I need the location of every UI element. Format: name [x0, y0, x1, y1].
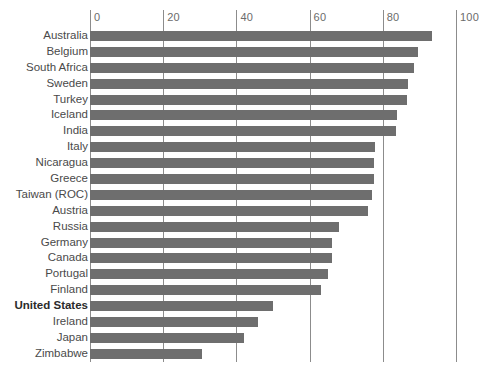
category-label-belgium: Belgium [46, 44, 88, 60]
bar-track [90, 346, 456, 362]
category-label-ireland: Ireland [53, 314, 88, 330]
category-label-portugal: Portugal [45, 266, 88, 282]
bar-row: Greece [0, 171, 474, 187]
bar-rows: AustraliaBelgiumSouth AfricaSwedenTurkey… [0, 28, 474, 362]
bar-track [90, 28, 456, 44]
bar-track [90, 219, 456, 235]
bar-track [90, 76, 456, 92]
bar-track [90, 44, 456, 60]
bar-india [90, 126, 396, 136]
bar-track [90, 171, 456, 187]
bar-austria [90, 206, 368, 216]
x-tick-label-0: 0 [94, 11, 100, 23]
bar-row: Sweden [0, 76, 474, 92]
bar-row: Turkey [0, 92, 474, 108]
bar-track [90, 298, 456, 314]
x-tick-label-80: 80 [387, 11, 400, 23]
bar-japan [90, 333, 244, 343]
bar-row: Australia [0, 28, 474, 44]
bar-track [90, 266, 456, 282]
bar-sweden [90, 79, 408, 89]
category-label-iceland: Iceland [51, 107, 88, 123]
bar-row: Zimbabwe [0, 346, 474, 362]
bar-track [90, 203, 456, 219]
bar-track [90, 155, 456, 171]
bar-track [90, 123, 456, 139]
category-label-sweden: Sweden [46, 76, 88, 92]
bar-ireland [90, 317, 258, 327]
bar-track [90, 60, 456, 76]
bar-track [90, 187, 456, 203]
bar-row: Finland [0, 282, 474, 298]
x-tick-label-100: 100 [460, 11, 479, 23]
category-label-russia: Russia [53, 219, 88, 235]
bar-track [90, 235, 456, 251]
bar-row: Germany [0, 235, 474, 251]
bar-nicaragua [90, 158, 374, 168]
category-label-australia: Australia [43, 28, 88, 44]
category-label-greece: Greece [50, 171, 88, 187]
bar-row: Nicaragua [0, 155, 474, 171]
bar-australia [90, 31, 432, 41]
bar-greece [90, 174, 374, 184]
category-label-taiwan-roc: Taiwan (ROC) [16, 187, 88, 203]
bar-row: South Africa [0, 60, 474, 76]
bar-row: Russia [0, 219, 474, 235]
x-tick-label-40: 40 [240, 11, 253, 23]
category-label-india: India [63, 123, 88, 139]
category-label-canada: Canada [48, 250, 88, 266]
bar-canada [90, 253, 332, 263]
bar-row: India [0, 123, 474, 139]
bar-track [90, 314, 456, 330]
bar-track [90, 282, 456, 298]
bar-row: Austria [0, 203, 474, 219]
x-tick-label-60: 60 [314, 11, 327, 23]
bar-row: Belgium [0, 44, 474, 60]
category-label-turkey: Turkey [53, 92, 88, 108]
bar-row: Italy [0, 139, 474, 155]
bar-row: United States [0, 298, 474, 314]
category-label-italy: Italy [67, 139, 88, 155]
bar-united-states [90, 301, 273, 311]
bar-row: Ireland [0, 314, 474, 330]
bar-row: Taiwan (ROC) [0, 187, 474, 203]
bar-track [90, 139, 456, 155]
bar-track [90, 250, 456, 266]
bar-turkey [90, 95, 407, 105]
bar-belgium [90, 47, 418, 57]
bar-track [90, 330, 456, 346]
category-label-austria: Austria [52, 203, 88, 219]
bar-portugal [90, 269, 328, 279]
bar-russia [90, 222, 339, 232]
bar-row: Iceland [0, 107, 474, 123]
bar-track [90, 107, 456, 123]
bar-track [90, 92, 456, 108]
bar-zimbabwe [90, 349, 202, 359]
category-label-japan: Japan [57, 330, 88, 346]
category-label-nicaragua: Nicaragua [36, 155, 88, 171]
bar-finland [90, 285, 321, 295]
bar-iceland [90, 110, 397, 120]
x-tick-label-20: 20 [167, 11, 180, 23]
category-label-germany: Germany [41, 235, 88, 251]
bar-italy [90, 142, 375, 152]
category-label-south-africa: South Africa [26, 60, 88, 76]
bar-row: Japan [0, 330, 474, 346]
bar-south-africa [90, 63, 414, 73]
bar-germany [90, 238, 332, 248]
bar-row: Canada [0, 250, 474, 266]
category-label-united-states: United States [15, 298, 89, 314]
bar-row: Portugal [0, 266, 474, 282]
category-label-finland: Finland [50, 282, 88, 298]
bar-taiwan-roc [90, 190, 372, 200]
category-label-zimbabwe: Zimbabwe [35, 346, 88, 362]
